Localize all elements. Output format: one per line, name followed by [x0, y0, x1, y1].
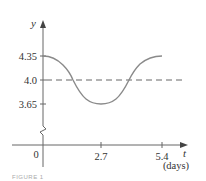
figure-caption: FIGURE 1: [12, 174, 44, 180]
y-tick-label-3.65: 3.65: [19, 99, 37, 110]
x-axis-label: t: [183, 147, 187, 159]
y-axis-label: y: [30, 17, 36, 29]
y-axis-break-icon: [40, 126, 46, 135]
x-tick-label-2.7: 2.7: [94, 151, 107, 162]
origin-label: 0: [33, 149, 38, 160]
x-axis-units: (days): [163, 160, 190, 172]
y-axis-arrow-icon: [40, 20, 46, 28]
y-tick-label-4.0: 4.0: [24, 75, 37, 86]
sinusoid-chart: y 4.35 4.0 3.65 0 2.7 5.4 t (days) FIGUR…: [0, 0, 206, 181]
y-tick-label-4.35: 4.35: [19, 51, 37, 62]
